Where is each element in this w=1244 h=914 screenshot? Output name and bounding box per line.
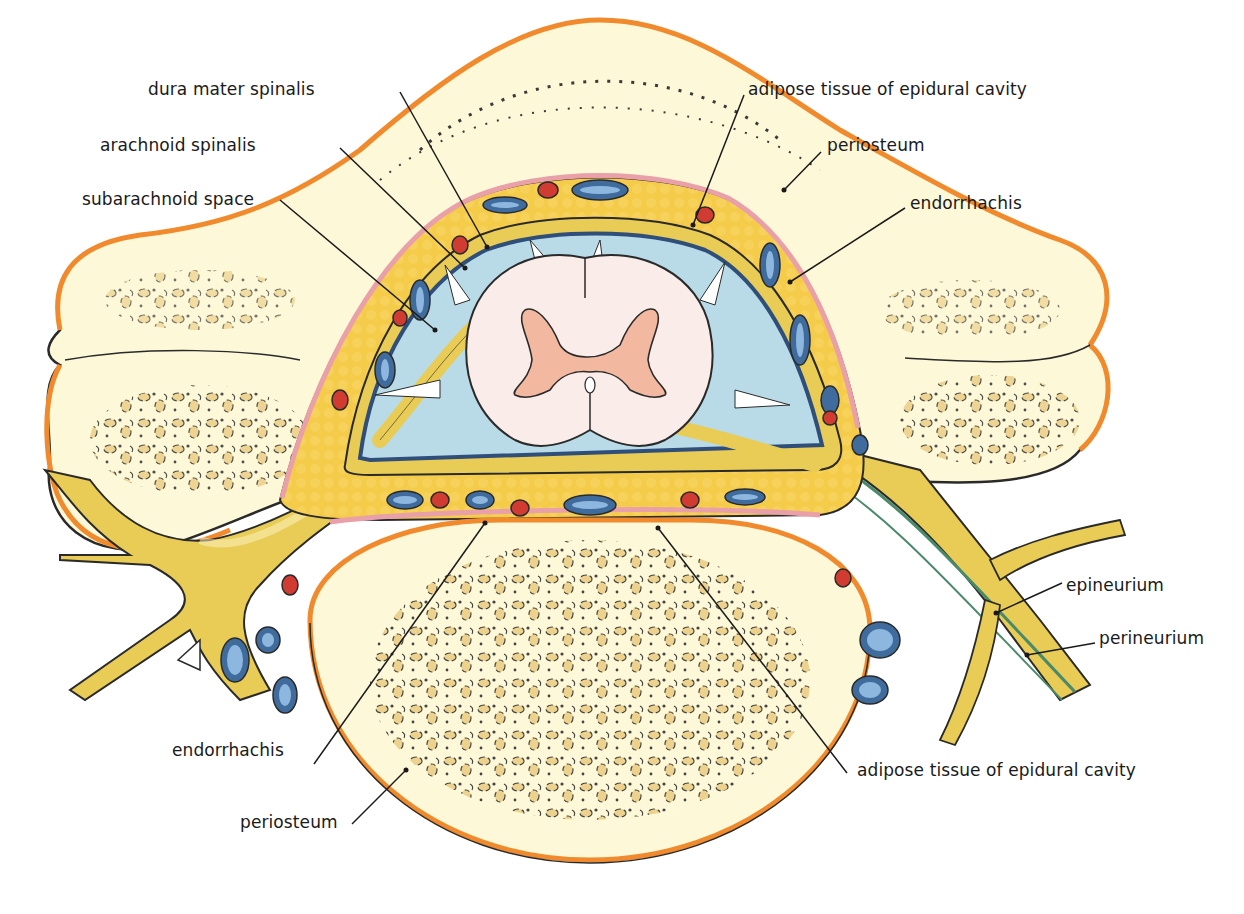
label-periosteum-top: periosteum xyxy=(827,135,925,155)
spinal-cord xyxy=(466,255,712,446)
label-dura-mater-spinalis: dura mater spinalis xyxy=(148,79,315,99)
label-endorrhachis-top: endorrhachis xyxy=(910,193,1022,213)
label-endorrhachis-bottom: endorrhachis xyxy=(172,740,284,760)
label-periosteum-bottom: periosteum xyxy=(240,812,338,832)
label-adipose-tissue-bottom: adipose tissue of epidural cavity xyxy=(857,760,1136,780)
label-epineurium: epineurium xyxy=(1066,575,1164,595)
label-perineurium: perineurium xyxy=(1099,628,1204,648)
label-adipose-tissue-top: adipose tissue of epidural cavity xyxy=(748,79,1027,99)
vertebral-body xyxy=(310,520,870,863)
label-subarachnoid-space: subarachnoid space xyxy=(82,189,254,209)
label-arachnoid-spinalis: arachnoid spinalis xyxy=(100,135,256,155)
anatomy-diagram: dura mater spinalis arachnoid spinalis s… xyxy=(0,0,1244,914)
figure-caption xyxy=(340,898,900,914)
